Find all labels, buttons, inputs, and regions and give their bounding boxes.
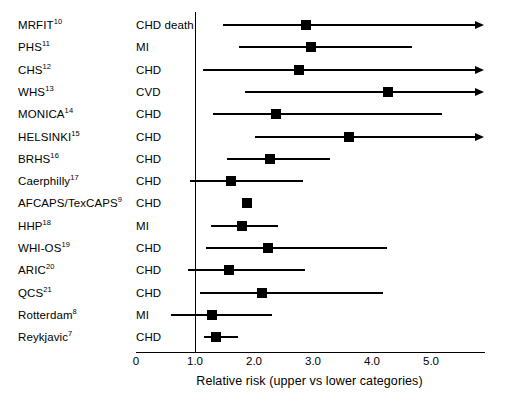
study-label: MRFIT10 xyxy=(18,19,62,31)
study-name: Caerphilly xyxy=(18,175,70,187)
arrow-right-icon xyxy=(475,66,484,74)
outcome-label: MI xyxy=(136,309,149,321)
outcome-label: MI xyxy=(136,41,149,53)
point-estimate-marker xyxy=(294,65,304,75)
point-estimate-marker xyxy=(224,265,234,275)
confidence-interval-line xyxy=(227,158,330,160)
study-reference: 12 xyxy=(43,62,52,71)
study-name: WHI-OS xyxy=(18,242,61,254)
x-axis-tick-label: 0 xyxy=(133,355,139,367)
outcome-label: CHD xyxy=(136,331,161,343)
study-reference: 11 xyxy=(42,39,50,48)
arrow-right-icon xyxy=(475,133,484,141)
study-name: Reykjavic xyxy=(18,331,68,343)
arrow-right-icon xyxy=(475,88,484,96)
study-reference: 10 xyxy=(54,17,63,26)
outcome-label: CHD xyxy=(136,175,161,187)
study-reference: 16 xyxy=(50,151,59,160)
point-estimate-marker xyxy=(306,42,316,52)
x-axis-tick-label: 5.0 xyxy=(423,355,439,367)
study-name: WHS xyxy=(18,86,45,98)
study-name: ARIC xyxy=(18,264,46,276)
study-label: WHI-OS19 xyxy=(18,242,70,254)
confidence-interval-line xyxy=(190,180,303,182)
study-label: PHS11 xyxy=(18,41,50,53)
arrow-right-icon xyxy=(475,21,484,29)
point-estimate-marker xyxy=(257,288,267,298)
x-axis-tick-label: 1.0 xyxy=(187,355,203,367)
study-label: Reykjavic7 xyxy=(18,331,72,343)
study-reference: 19 xyxy=(61,240,70,249)
confidence-interval-line xyxy=(171,314,272,316)
study-label: MONICA14 xyxy=(18,108,73,120)
study-reference: 17 xyxy=(70,173,79,182)
outcome-label: CHD xyxy=(136,264,161,276)
point-estimate-marker xyxy=(226,176,236,186)
study-name: AFCAPS/TexCAPS xyxy=(18,197,118,209)
study-label: Rotterdam8 xyxy=(18,309,77,321)
study-name: HELSINKI xyxy=(18,131,71,143)
study-label: CHS12 xyxy=(18,64,51,76)
study-label: WHS13 xyxy=(18,86,54,98)
confidence-interval-line xyxy=(206,247,387,249)
outcome-label: CVD xyxy=(136,86,161,98)
study-name: PHS xyxy=(18,41,42,53)
study-name: QCS xyxy=(18,287,43,299)
outcome-label: CHD xyxy=(136,287,161,299)
forest-plot: MRFIT10CHD deathPHS11MICHS12CHDWHS13CVDM… xyxy=(0,0,507,404)
point-estimate-marker xyxy=(344,132,354,142)
study-label: HELSINKI15 xyxy=(18,131,80,143)
point-estimate-marker xyxy=(242,198,252,208)
confidence-interval-line xyxy=(213,113,443,115)
study-reference: 7 xyxy=(68,329,72,338)
study-reference: 18 xyxy=(43,218,52,227)
point-estimate-marker xyxy=(207,310,217,320)
confidence-interval-line xyxy=(239,46,412,48)
outcome-label: CHD xyxy=(136,131,161,143)
study-reference: 13 xyxy=(45,84,54,93)
study-name: Rotterdam xyxy=(18,309,73,321)
study-label: HHP18 xyxy=(18,220,51,232)
study-name: HHP xyxy=(18,220,43,232)
outcome-label: CHD xyxy=(136,153,161,165)
study-label: QCS21 xyxy=(18,287,52,299)
study-label: BRHS16 xyxy=(18,153,59,165)
point-estimate-marker xyxy=(271,109,281,119)
outcome-label: MI xyxy=(136,220,149,232)
point-estimate-marker xyxy=(263,243,273,253)
outcome-label: CHD death xyxy=(136,19,194,31)
confidence-interval-line xyxy=(223,24,476,26)
study-name: MRFIT xyxy=(18,19,54,31)
x-axis-tick-label: 2.0 xyxy=(246,355,262,367)
study-reference: 20 xyxy=(46,262,55,271)
point-estimate-marker xyxy=(237,221,247,231)
study-reference: 15 xyxy=(71,129,80,138)
x-axis-tick-label: 3.0 xyxy=(305,355,321,367)
point-estimate-marker xyxy=(265,154,275,164)
outcome-label: CHD xyxy=(136,64,161,76)
confidence-interval-line xyxy=(245,91,476,93)
study-name: MONICA xyxy=(18,108,65,120)
outcome-label: CHD xyxy=(136,108,161,120)
confidence-interval-line xyxy=(200,292,383,294)
point-estimate-marker xyxy=(383,87,393,97)
study-reference: 9 xyxy=(118,196,122,205)
confidence-interval-line xyxy=(203,69,476,71)
confidence-interval-line xyxy=(255,136,476,138)
study-name: CHS xyxy=(18,64,43,76)
point-estimate-marker xyxy=(211,332,221,342)
confidence-interval-line xyxy=(204,336,238,338)
confidence-interval-line xyxy=(188,269,305,271)
study-reference: 14 xyxy=(65,106,74,115)
study-label: Caerphilly17 xyxy=(18,175,79,187)
study-label: ARIC20 xyxy=(18,264,54,276)
outcome-label: CHD xyxy=(136,197,161,209)
outcome-label: CHD xyxy=(136,242,161,254)
x-axis-line xyxy=(136,352,485,353)
study-reference: 21 xyxy=(43,285,52,294)
study-label: AFCAPS/TexCAPS9 xyxy=(18,197,122,209)
x-axis-tick-label: 4.0 xyxy=(364,355,380,367)
study-reference: 8 xyxy=(73,307,77,316)
point-estimate-marker xyxy=(301,20,311,30)
study-name: BRHS xyxy=(18,153,50,165)
